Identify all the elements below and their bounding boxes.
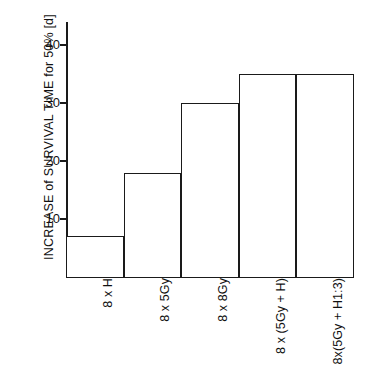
bar [239, 74, 297, 277]
y-tick-label-40: 40 [20, 37, 60, 52]
plot-area [66, 22, 354, 277]
bar-chart: INCREASE of SURVIVAL TIME for 50% [d] 10… [0, 0, 386, 382]
bar [66, 236, 124, 277]
bar [181, 103, 239, 277]
bar [296, 74, 354, 277]
x-axis-labels: 8 x H8 x 5Gy8 x 8Gy8 x (5Gy + H)8x(5Gy +… [66, 278, 354, 382]
y-tick-label-10: 10 [20, 211, 60, 226]
y-tick-label-30: 30 [20, 95, 60, 110]
y-tick-label-20: 20 [20, 153, 60, 168]
x-axis-label: 8x(5Gy + H1:3) [331, 278, 386, 378]
bar [124, 173, 182, 277]
